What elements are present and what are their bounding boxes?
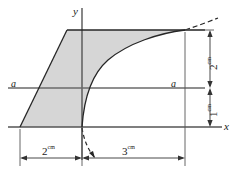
- dimension-label-left-width: 2cm: [42, 142, 55, 158]
- arrowhead-right-width-end: [178, 155, 185, 160]
- arrowhead-left-width-start: [20, 155, 27, 160]
- dimension-label-upper-height: 2cm: [204, 57, 220, 70]
- arrowhead-right-width-start: [82, 155, 89, 160]
- arrowhead-lower-height-bottom: [207, 120, 212, 127]
- engineering-area-diagram: y x a a 2cm 3cm 2cm 1cm: [0, 0, 235, 171]
- dimension-label-right-width: 3cm: [122, 142, 135, 158]
- dimension-value-upper-height: 2: [207, 65, 219, 71]
- curve-tail-arrowhead: [89, 151, 95, 158]
- dimension-unit-left-width: cm: [48, 144, 55, 150]
- dimension-label-lower-height: 1cm: [204, 104, 220, 117]
- arrowhead-lower-height-top: [207, 88, 212, 95]
- y-axis-label: y: [73, 6, 78, 17]
- arrowhead-left-width-end: [75, 155, 82, 160]
- dimension-value-lower-height: 1: [207, 112, 219, 118]
- dimension-unit-upper-height: cm: [206, 57, 212, 64]
- dimension-unit-right-width: cm: [128, 144, 135, 150]
- arrowhead-upper-height-top: [207, 30, 212, 37]
- dimension-unit-lower-height: cm: [206, 104, 212, 111]
- section-label-right: a: [171, 79, 176, 89]
- diagram-canvas: [0, 0, 235, 171]
- shaded-area: [20, 30, 185, 127]
- x-axis-label: x: [224, 121, 229, 132]
- arrowhead-upper-height-bottom: [207, 81, 212, 88]
- curve-dashed-extension-upper: [185, 18, 218, 30]
- section-label-left: a: [11, 79, 16, 89]
